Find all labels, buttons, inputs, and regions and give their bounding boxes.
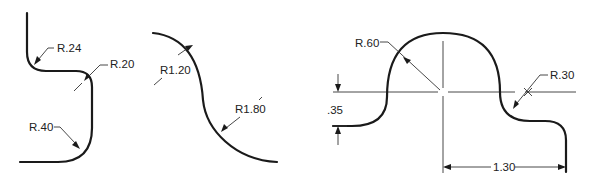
r120-label: R1.20: [160, 64, 191, 76]
r40-leader: [54, 127, 75, 143]
r24-leader: [38, 48, 54, 60]
middle-profile-curve: [153, 33, 277, 162]
r60-leader: [380, 42, 440, 90]
r40-label: R.40: [29, 121, 53, 133]
figure-middle: R1.20 R1.80: [153, 33, 277, 162]
figure-left: R.24 R.20 R.40: [20, 13, 134, 162]
r20-tail: [74, 83, 82, 91]
dim-130-right-arrowhead: [558, 164, 566, 170]
r120-tail: [154, 78, 162, 85]
r20-leader: [88, 65, 108, 77]
figure-right: R.60 R.30 .35 1.30: [327, 33, 576, 173]
dim-35-label: .35: [327, 104, 343, 116]
left-profile-curve: [20, 13, 92, 162]
r24-label: R.24: [57, 42, 82, 54]
drawing-canvas: R.24 R.20 R.40 R1.20 R1.80 R.: [0, 0, 593, 182]
r30-label: R.30: [550, 69, 574, 81]
r30-leader: [517, 75, 548, 103]
r180-leader: [226, 117, 240, 128]
r60-arrowhead: [403, 57, 411, 64]
r180-label: R1.80: [235, 103, 266, 115]
r60-label: R.60: [355, 37, 379, 49]
dim-130-left-arrowhead: [443, 164, 451, 170]
dim-130-label: 1.30: [493, 161, 515, 173]
r20-label: R.20: [110, 58, 134, 70]
r20-arrowhead: [84, 73, 90, 81]
r180-tail: [259, 97, 262, 100]
r40-arrowhead: [72, 141, 80, 149]
dim-35-top-arrowhead: [335, 84, 341, 92]
r180-arrowhead: [221, 124, 228, 132]
dim-35-bottom-arrowhead: [335, 126, 341, 134]
right-profile-curve: [333, 33, 566, 172]
